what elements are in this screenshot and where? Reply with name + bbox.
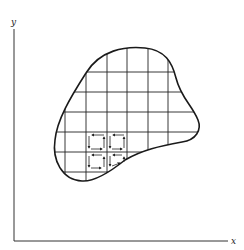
y-axis-label: y — [10, 17, 17, 27]
axes: y x — [10, 17, 236, 246]
green-theorem-diagram: y x — [0, 0, 244, 250]
circulation-arrows — [89, 135, 124, 168]
x-axis-label: x — [231, 236, 236, 246]
